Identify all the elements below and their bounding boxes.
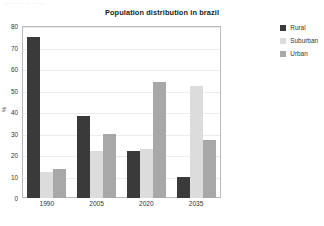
y-tick-label: 50 bbox=[11, 87, 18, 94]
legend-swatch-icon bbox=[280, 25, 286, 31]
bar-suburban-2020[interactable] bbox=[140, 149, 153, 198]
plot-area-wrapper bbox=[22, 26, 221, 198]
chart-title: Population distribution in brazil bbox=[0, 8, 324, 17]
legend-swatch-icon bbox=[280, 38, 286, 44]
bar-group-2035 bbox=[171, 26, 221, 198]
bar-group-1990 bbox=[22, 26, 72, 198]
bar-urban-2035[interactable] bbox=[203, 140, 216, 198]
legend-label: Rural bbox=[290, 24, 305, 31]
legend-label: Suburban bbox=[290, 37, 318, 44]
chart-legend: RuralSuburbanUrban bbox=[280, 24, 318, 57]
legend-item-urban[interactable]: Urban bbox=[280, 50, 318, 57]
legend-item-rural[interactable]: Rural bbox=[280, 24, 318, 31]
y-tick-label: 80 bbox=[11, 23, 18, 30]
y-tick-label: 10 bbox=[11, 173, 18, 180]
legend-item-suburban[interactable]: Suburban bbox=[280, 37, 318, 44]
legend-swatch-icon bbox=[280, 51, 286, 57]
bar-urban-2005[interactable] bbox=[103, 134, 116, 199]
bar-rural-2020[interactable] bbox=[127, 151, 140, 198]
bar-group-2005 bbox=[72, 26, 122, 198]
x-tick-label: 2020 bbox=[122, 200, 172, 207]
x-tick-label: 2005 bbox=[72, 200, 122, 207]
y-axis-ticks: 80706050403020100 bbox=[0, 26, 20, 198]
y-tick-label: 30 bbox=[11, 130, 18, 137]
chart-page: — — — — — — Population distribution in b… bbox=[0, 0, 324, 226]
bar-rural-2005[interactable] bbox=[77, 116, 90, 198]
x-tick-label: 2035 bbox=[171, 200, 221, 207]
bar-group-2020 bbox=[122, 26, 172, 198]
x-axis-ticks: 1990200520202035 bbox=[22, 200, 221, 207]
bar-suburban-1990[interactable] bbox=[40, 172, 53, 198]
y-tick-label: 20 bbox=[11, 152, 18, 159]
y-tick-label: 0 bbox=[14, 195, 18, 202]
bar-suburban-2035[interactable] bbox=[190, 86, 203, 198]
cropped-text-sliver: — — — — — — bbox=[4, 0, 45, 6]
legend-label: Urban bbox=[290, 50, 307, 57]
bar-rural-1990[interactable] bbox=[27, 37, 40, 198]
y-tick-label: 40 bbox=[11, 109, 18, 116]
bar-urban-1990[interactable] bbox=[53, 169, 66, 198]
bars-layer bbox=[22, 26, 221, 198]
bar-urban-2020[interactable] bbox=[153, 82, 166, 198]
y-tick-label: 60 bbox=[11, 66, 18, 73]
x-tick-label: 1990 bbox=[22, 200, 72, 207]
y-tick-label: 70 bbox=[11, 44, 18, 51]
bar-suburban-2005[interactable] bbox=[90, 151, 103, 198]
bar-rural-2035[interactable] bbox=[177, 177, 190, 199]
